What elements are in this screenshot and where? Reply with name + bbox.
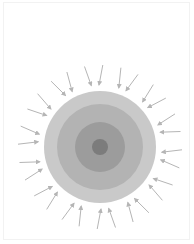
inward-arrow-icon: [67, 72, 72, 92]
inward-arrow-icon: [126, 74, 138, 90]
inward-arrow-icon: [149, 185, 162, 200]
inward-arrow-icon: [62, 203, 74, 219]
inward-arrow-icon: [38, 94, 51, 109]
core-circle: [92, 139, 108, 155]
inward-arrow-icon: [99, 65, 103, 85]
concentric-rings: [44, 91, 156, 203]
inward-arrow-icon: [51, 81, 65, 95]
inward-arrow-icon: [47, 192, 58, 209]
inward-arrow-icon: [18, 142, 38, 144]
compression-diagram: [0, 0, 194, 244]
inward-arrow-icon: [161, 160, 180, 168]
inward-arrow-icon: [119, 68, 121, 88]
inward-arrow-icon: [160, 132, 180, 133]
inward-arrow-icon: [143, 85, 154, 102]
inward-arrow-icon: [97, 209, 101, 229]
inward-arrow-icon: [79, 206, 81, 226]
inward-arrow-icon: [153, 179, 172, 186]
inward-arrow-icon: [128, 202, 133, 222]
inward-arrow-icon: [109, 208, 116, 227]
inward-arrow-icon: [148, 98, 166, 108]
inward-arrow-icon: [85, 67, 92, 86]
inward-arrow-icon: [162, 150, 182, 152]
inward-arrow-icon: [27, 109, 46, 116]
inward-arrow-icon: [21, 126, 40, 134]
inward-arrow-icon: [25, 169, 42, 180]
inward-arrow-icon: [158, 114, 175, 125]
inward-arrow-icon: [20, 162, 40, 163]
inward-arrow-icon: [135, 199, 149, 213]
inward-arrow-icon: [34, 186, 52, 196]
